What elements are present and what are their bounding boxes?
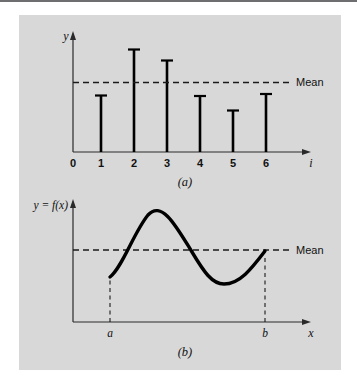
panel-a-mean-label: Mean <box>296 76 324 88</box>
panel-a-bars <box>95 50 272 153</box>
panel-b-upper-bound-label: b <box>262 327 268 339</box>
panel-a-tick-6: 6 <box>263 157 269 169</box>
bar-2 <box>128 50 140 153</box>
panel-a-x-axis-arrowhead <box>302 149 311 155</box>
panel-a-tick-0: 0 <box>70 157 76 169</box>
figure-root: Mean y i 0 1 2 3 4 5 6 (a) Mean <box>0 0 357 386</box>
panel-a-tick-4: 4 <box>197 157 204 169</box>
panel-a-tick-3: 3 <box>164 157 170 169</box>
panel-a-x-axis-label: i <box>309 156 312 170</box>
panel-b-x-axis-arrowhead <box>302 319 311 325</box>
panel-b-mean-label: Mean <box>296 244 324 256</box>
panel-a-y-axis-label: y <box>62 29 69 43</box>
figure-svg: Mean y i 0 1 2 3 4 5 6 (a) Mean <box>0 0 357 386</box>
bar-6 <box>260 94 272 152</box>
panel-b-function-curve <box>110 211 265 284</box>
panel-a-tick-2: 2 <box>131 157 137 169</box>
bar-1 <box>95 96 107 153</box>
panel-b-group: Mean y = f(x) x a b (b) <box>32 199 323 359</box>
bar-5 <box>227 111 239 153</box>
panel-a-tick-1: 1 <box>98 157 104 169</box>
panel-a-group: Mean y i 0 1 2 3 4 5 6 (a) <box>62 29 323 189</box>
panel-a-caption: (a) <box>178 175 193 189</box>
bar-3 <box>161 61 173 153</box>
bar-4 <box>194 96 206 152</box>
panel-b-lower-bound-label: a <box>107 327 113 339</box>
panel-b-caption: (b) <box>178 345 193 359</box>
panel-a-tick-5: 5 <box>230 157 236 169</box>
panel-a-y-axis-arrowhead <box>70 31 76 40</box>
panel-b-y-axis-arrowhead <box>70 199 76 208</box>
panel-b-y-axis-label: y = f(x) <box>32 199 68 212</box>
panel-b-x-axis-label: x <box>307 326 314 340</box>
